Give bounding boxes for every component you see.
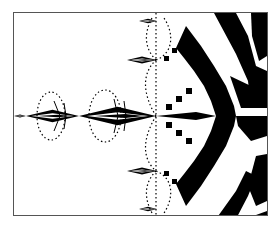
fractal-image [14, 13, 267, 215]
fractal-figure [13, 12, 268, 216]
figure-caption [14, 222, 270, 230]
